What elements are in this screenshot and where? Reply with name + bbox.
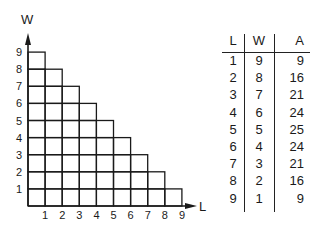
cell-l: 4	[222, 104, 244, 121]
unit-square	[96, 138, 113, 155]
unit-square	[131, 155, 148, 172]
cell-w: 5	[244, 121, 274, 138]
x-tick-label: 1	[42, 209, 48, 221]
y-tick-label: 5	[16, 115, 22, 127]
table-header-row: L W A	[222, 32, 308, 52]
unit-square	[45, 86, 62, 103]
cell-w: 6	[244, 104, 274, 121]
unit-square	[45, 155, 62, 172]
unit-square	[131, 172, 148, 189]
y-tick-label: 3	[16, 149, 22, 161]
unit-square	[165, 189, 182, 206]
unit-square	[114, 189, 131, 206]
unit-square	[114, 155, 131, 172]
table-row: 3721	[222, 86, 308, 103]
unit-square	[28, 52, 45, 69]
cell-l: 9	[222, 190, 244, 207]
y-axis-arrow-icon	[25, 33, 31, 45]
x-axis-label: L	[199, 199, 206, 214]
unit-square	[28, 189, 45, 206]
x-tick-label: 4	[93, 209, 99, 221]
cell-a: 9	[274, 190, 308, 207]
unit-square	[114, 172, 131, 189]
y-tick-label: 8	[16, 63, 22, 75]
unit-square	[131, 189, 148, 206]
x-tick-label: 2	[59, 209, 65, 221]
table-row: 2816	[222, 69, 308, 86]
cell-l: 1	[222, 52, 244, 69]
unit-square	[96, 172, 113, 189]
cell-w: 4	[244, 138, 274, 155]
cell-a: 24	[274, 104, 308, 121]
x-tick-label: 7	[145, 209, 151, 221]
cell-l: 7	[222, 155, 244, 172]
header-l: L	[222, 32, 244, 52]
cell-l: 6	[222, 138, 244, 155]
cell-a: 16	[274, 69, 308, 86]
table-row: 7321	[222, 155, 308, 172]
header-a: A	[274, 32, 308, 52]
table-row: 4624	[222, 104, 308, 121]
table-row: 199	[222, 52, 308, 69]
unit-square	[62, 138, 79, 155]
x-tick-label: 5	[111, 209, 117, 221]
unit-square	[79, 138, 96, 155]
unit-square	[62, 103, 79, 120]
unit-square	[28, 69, 45, 86]
cell-w: 2	[244, 172, 274, 189]
unit-square	[148, 189, 165, 206]
lwa-table: L W A 1992816372146245525642473218216919	[222, 32, 308, 207]
table-row: 5525	[222, 121, 308, 138]
header-w: W	[244, 32, 274, 52]
unit-square	[79, 155, 96, 172]
y-axis-label: W	[21, 12, 34, 27]
x-tick-label: 8	[162, 209, 168, 221]
unit-square	[96, 189, 113, 206]
unit-square	[96, 121, 113, 138]
unit-square	[62, 155, 79, 172]
unit-square	[45, 121, 62, 138]
cell-l: 8	[222, 172, 244, 189]
y-tick-label: 4	[16, 132, 22, 144]
staircase-grid-diagram: W L 123456789 123456789	[0, 0, 215, 231]
x-tick-label: 3	[76, 209, 82, 221]
cell-l: 5	[222, 121, 244, 138]
unit-square	[45, 189, 62, 206]
unit-square	[62, 189, 79, 206]
cell-a: 16	[274, 172, 308, 189]
cell-a: 21	[274, 155, 308, 172]
unit-square	[79, 172, 96, 189]
y-tick-label: 7	[16, 80, 22, 92]
cell-w: 7	[244, 86, 274, 103]
unit-square	[45, 138, 62, 155]
unit-square	[62, 172, 79, 189]
cell-a: 21	[274, 86, 308, 103]
unit-square	[62, 121, 79, 138]
unit-square	[79, 189, 96, 206]
unit-square	[62, 86, 79, 103]
unit-square	[79, 121, 96, 138]
unit-square	[28, 138, 45, 155]
unit-square	[45, 172, 62, 189]
unit-square	[114, 138, 131, 155]
unit-square	[45, 69, 62, 86]
unit-square	[96, 155, 113, 172]
unit-square	[28, 103, 45, 120]
unit-square	[28, 121, 45, 138]
y-tick-label: 6	[16, 97, 22, 109]
cell-w: 9	[244, 52, 274, 69]
x-tick-label: 9	[179, 209, 185, 221]
unit-square	[45, 103, 62, 120]
table-row: 8216	[222, 172, 308, 189]
x-axis-arrow-icon	[185, 203, 197, 209]
cell-w: 8	[244, 69, 274, 86]
cell-l: 2	[222, 69, 244, 86]
unit-square	[28, 86, 45, 103]
cell-a: 25	[274, 121, 308, 138]
y-tick-label: 9	[16, 46, 22, 58]
cell-w: 1	[244, 190, 274, 207]
unit-square	[148, 172, 165, 189]
cell-w: 3	[244, 155, 274, 172]
cell-a: 24	[274, 138, 308, 155]
y-tick-label: 2	[16, 166, 22, 178]
